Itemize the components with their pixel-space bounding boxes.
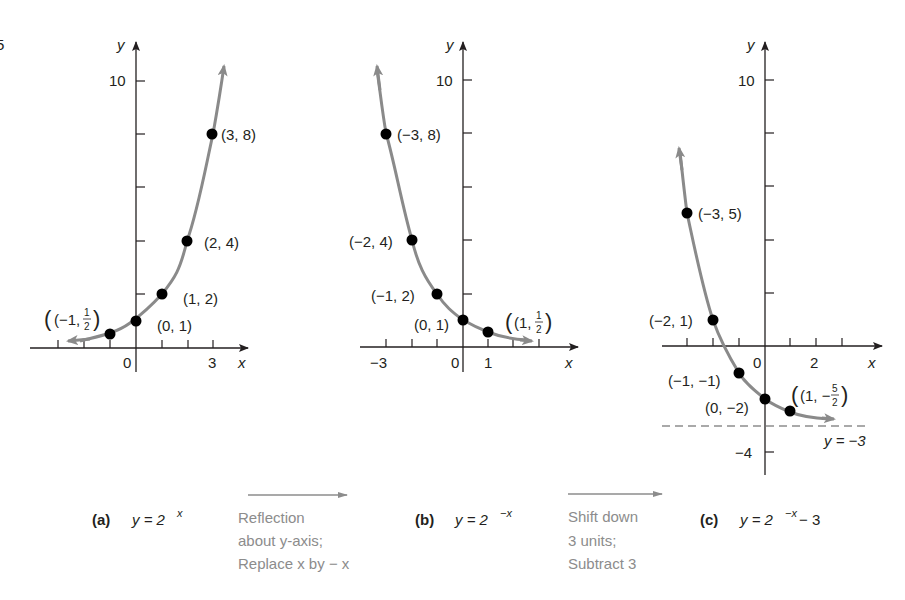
- point-label-neg2-1: (−2, 1): [649, 312, 693, 329]
- svg-text:(b): (b): [415, 511, 434, 528]
- equation-a: y = 2: [131, 511, 166, 528]
- curve-top-arrow: [377, 66, 380, 90]
- svg-text:(1,: (1,: [514, 314, 532, 331]
- svg-text:1: 1: [536, 310, 542, 321]
- svg-text:Reflection: Reflection: [238, 509, 305, 526]
- y-axis-label: y: [746, 36, 756, 53]
- transformation-shift: Shift down 3 units; Subtract 3: [568, 494, 662, 572]
- point-label-3-8: (3, 8): [221, 126, 256, 143]
- data-points: [381, 129, 494, 338]
- point-label-0-neg2: (0, −2): [705, 399, 749, 416]
- svg-text:2: 2: [84, 321, 90, 332]
- point-label-1-half: ( (1, 1 2 ): [505, 309, 552, 335]
- y-tick-label-10: 10: [109, 72, 126, 89]
- svg-text:y = 2: y = 2: [739, 511, 774, 528]
- panel-a: y x 10 0 3 ( (−1, 1 2 ) (0, 1) (1, 2) (2…: [30, 36, 256, 372]
- x-axis-label: x: [564, 354, 573, 371]
- y-tick-label-10: 10: [436, 72, 453, 89]
- svg-text:y = 2: y = 2: [454, 511, 489, 528]
- svg-text:(: (: [44, 306, 52, 331]
- svg-text:(−1,: (−1,: [54, 311, 80, 328]
- curve-left-arrow: [68, 339, 90, 341]
- x-tick-label-3: 3: [208, 354, 216, 371]
- point-label-0-1: (0, 1): [157, 317, 192, 334]
- curve-right-arrow: [520, 340, 532, 341]
- svg-text:(1, −: (1, −: [800, 387, 831, 404]
- curve-top-arrow: [679, 148, 682, 170]
- y-tick-label-neg4: −4: [735, 444, 752, 461]
- svg-text:5: 5: [832, 383, 838, 394]
- panel-b: y x 10 −3 0 1 (−3, 8) (−2, 4) (−1, 2) (0…: [349, 36, 578, 372]
- point-label-1-neg5half: ( (1, − 5 2 ): [791, 382, 848, 408]
- x-tick-label-neg3: −3: [370, 354, 387, 371]
- transformation-reflection: Reflection about y-axis; Replace x by − …: [238, 495, 350, 572]
- point-label-1-2: (1, 2): [183, 290, 218, 307]
- svg-text:3 units;: 3 units;: [568, 532, 616, 549]
- point-label-neg1-neg1: (−1, −1): [668, 372, 721, 389]
- svg-text:): ): [545, 309, 552, 334]
- figure-number-fragment: 5: [0, 36, 4, 53]
- caption-b: (b) y = 2 −x: [415, 507, 512, 528]
- svg-text:(a): (a): [92, 511, 110, 528]
- data-points: [105, 129, 218, 340]
- panel-c: y x 10 −4 0 2 y = −3 (−3, 5) (−2, 1) (−1…: [649, 36, 882, 475]
- caption-a: (a) y = 2 x: [92, 507, 183, 528]
- y-tick-label-10: 10: [738, 72, 755, 89]
- x-axis-label: x: [237, 354, 246, 371]
- svg-text:): ): [93, 306, 100, 331]
- svg-text:− 3: − 3: [799, 511, 820, 528]
- figure-canvas: 5 y x 10 0 3 ( (−1, 1: [0, 0, 905, 600]
- y-axis-label: y: [445, 36, 455, 53]
- svg-text:Replace x by − x: Replace x by − x: [238, 555, 350, 572]
- y-ticks: [463, 80, 472, 294]
- y-ticks: [136, 81, 145, 294]
- point-label-neg3-8: (−3, 8): [397, 126, 441, 143]
- svg-text:Shift down: Shift down: [568, 508, 638, 525]
- svg-text:2: 2: [536, 324, 542, 335]
- svg-text:about y-axis;: about y-axis;: [238, 532, 323, 549]
- point-label-neg1-half: ( (−1, 1 2 ): [44, 306, 100, 332]
- svg-text:(: (: [791, 382, 799, 407]
- x-tick-label-2: 2: [810, 354, 818, 371]
- x-tick-label-0: 0: [123, 354, 131, 371]
- x-axis-label: x: [867, 354, 876, 371]
- point-label-2-4: (2, 4): [204, 234, 239, 251]
- point-label-neg3-5: (−3, 5): [698, 205, 742, 222]
- caption-c: (c) y = 2 −x − 3: [700, 507, 820, 528]
- svg-text:x: x: [176, 507, 183, 519]
- svg-text:−x: −x: [500, 507, 512, 519]
- point-label-neg1-2: (−1, 2): [371, 287, 415, 304]
- x-tick-label-0: 0: [451, 354, 459, 371]
- svg-text:1: 1: [84, 307, 90, 318]
- x-tick-label-0: 0: [753, 354, 761, 371]
- asymptote-label: y = −3: [823, 432, 866, 449]
- svg-text:(c): (c): [700, 511, 718, 528]
- svg-text:): ): [841, 382, 848, 407]
- svg-text:2: 2: [832, 397, 838, 408]
- svg-text:−x: −x: [785, 507, 797, 519]
- svg-text:(: (: [505, 309, 513, 334]
- x-tick-label-1: 1: [484, 354, 492, 371]
- curve-right-arrow: [822, 418, 834, 419]
- point-label-0-1: (0, 1): [414, 316, 449, 333]
- point-label-neg2-4: (−2, 4): [349, 233, 393, 250]
- svg-text:Subtract 3: Subtract 3: [568, 555, 636, 572]
- y-axis-label: y: [116, 36, 126, 53]
